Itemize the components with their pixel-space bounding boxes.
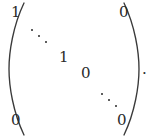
dot: [31, 29, 33, 31]
matrix-figure: 1 0 1 0 0 0 .: [0, 0, 153, 138]
matrix-entry-top-right: 0: [119, 5, 129, 20]
trailing-period: .: [142, 62, 147, 77]
dot: [101, 93, 103, 95]
diagonal-dots-icon-lower: [101, 93, 123, 111]
dot: [115, 105, 117, 107]
matrix-entry-bottom-right: 0: [117, 113, 127, 128]
dot: [45, 41, 47, 43]
matrix-entry-middle-one: 1: [59, 50, 69, 65]
matrix-entry-middle-zero: 0: [81, 66, 91, 81]
diagonal-dots-icon-upper: [31, 29, 53, 47]
matrix-entry-bottom-left: 0: [11, 113, 21, 128]
dot: [38, 35, 40, 37]
matrix-entry-top-left: 1: [11, 5, 21, 20]
dot: [108, 99, 110, 101]
